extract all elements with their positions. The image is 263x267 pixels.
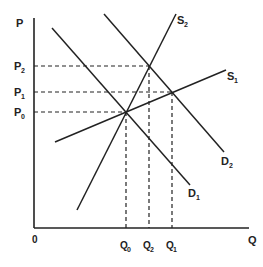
svg-text:1: 1 <box>173 246 177 253</box>
origin-label: 0 <box>32 234 38 245</box>
demand-curve-d2 <box>104 14 224 152</box>
curve-label-s1: S 1 <box>227 70 238 84</box>
y-axis-label: P <box>16 17 23 29</box>
svg-text:2: 2 <box>184 21 188 28</box>
supply-demand-diagram: P Q 0 P 2 P 1 P 0 Q 0 Q 2 Q 1 S 2 S 1 D … <box>0 0 263 267</box>
curve-label-d1: D 1 <box>188 187 200 201</box>
svg-text:2: 2 <box>21 67 25 74</box>
svg-text:2: 2 <box>150 246 154 253</box>
price-label-p0: P 0 <box>14 106 25 120</box>
svg-text:D: D <box>221 155 229 167</box>
svg-text:D: D <box>188 187 196 199</box>
svg-text:2: 2 <box>229 162 233 169</box>
svg-text:0: 0 <box>21 113 25 120</box>
demand-curve-d1 <box>52 28 190 185</box>
price-label-p2: P 2 <box>14 60 25 74</box>
x-axis-label: Q <box>248 234 257 246</box>
svg-text:0: 0 <box>127 246 131 253</box>
svg-text:1: 1 <box>196 194 200 201</box>
quantity-label-q1: Q 1 <box>166 240 177 253</box>
price-label-p1: P 1 <box>14 86 25 100</box>
curve-label-s2: S 2 <box>177 14 188 28</box>
quantity-label-q2: Q 2 <box>143 240 154 253</box>
quantity-label-q0: Q 0 <box>120 240 131 253</box>
supply-curve-s1 <box>55 70 226 142</box>
svg-text:1: 1 <box>234 77 238 84</box>
svg-text:1: 1 <box>21 93 25 100</box>
curve-label-d2: D 2 <box>221 155 233 169</box>
